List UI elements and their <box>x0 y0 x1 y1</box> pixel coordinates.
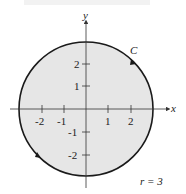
circle-diagram: y x C r = 3 -2 -1 1 2 2 1 -1 -2 <box>0 0 186 194</box>
y-tick-label: -1 <box>68 126 77 138</box>
curve-label: C <box>130 44 138 56</box>
radius-label: r = 3 <box>140 175 163 187</box>
y-tick-label: -2 <box>68 149 77 161</box>
orientation-arrow-upper-right <box>130 59 136 65</box>
x-tick-label: -1 <box>57 115 66 127</box>
y-tick-label: 1 <box>74 80 80 92</box>
x-tick-label: -2 <box>35 115 44 127</box>
x-axis-label: x <box>170 102 176 114</box>
x-tick-label: 1 <box>105 115 111 127</box>
y-axis-label: y <box>82 9 88 21</box>
y-tick-label: 2 <box>74 58 80 70</box>
x-tick-label: 2 <box>128 115 134 127</box>
